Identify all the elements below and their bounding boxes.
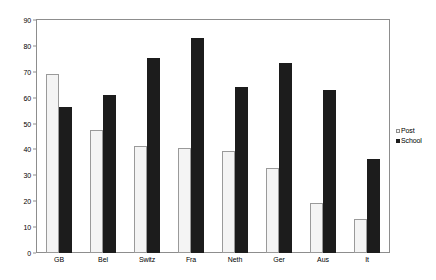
- y-tick-label: 70: [23, 68, 31, 75]
- y-tick-mark: [33, 175, 36, 176]
- bar-ger-school: [279, 63, 292, 253]
- legend-item-post: Post: [396, 126, 436, 135]
- square-light-swatch-icon: [396, 129, 400, 133]
- bar-neth-post: [222, 151, 235, 253]
- bar-bel-school: [103, 95, 116, 253]
- legend-item-school: School: [396, 136, 436, 145]
- x-tick-label: It: [365, 256, 369, 264]
- bar-ger-post: [266, 168, 279, 253]
- y-tick-label: 50: [23, 120, 31, 127]
- bars-layer: [37, 20, 389, 253]
- bar-it-post: [354, 219, 367, 253]
- legend: PostSchool: [396, 126, 436, 146]
- y-tick-mark: [33, 71, 36, 72]
- x-tick-label: GB: [54, 256, 64, 264]
- x-tick-label: Ger: [273, 256, 284, 264]
- legend-label: School: [401, 137, 422, 145]
- x-tick-label: Switz: [139, 256, 155, 264]
- bar-aus-post: [310, 203, 323, 253]
- bar-aus-school: [323, 90, 336, 253]
- bar-neth-school: [235, 87, 248, 253]
- bar-group: [301, 20, 345, 253]
- bar-gb-post: [46, 74, 59, 253]
- y-tick-mark: [33, 201, 36, 202]
- bar-group: [345, 20, 389, 253]
- bar-fra-school: [191, 38, 204, 253]
- bar-it-school: [367, 159, 380, 253]
- bar-group: [169, 20, 213, 253]
- y-tick-mark: [33, 149, 36, 150]
- y-tick-mark: [33, 45, 36, 46]
- y-tick-mark: [33, 123, 36, 124]
- legend-label: Post: [401, 127, 415, 135]
- x-tick-label: Fra: [186, 256, 196, 264]
- y-axis: 0102030405060708090: [0, 0, 36, 280]
- y-tick-label: 80: [23, 42, 31, 49]
- x-tick-label: Bel: [98, 256, 108, 264]
- bar-group: [257, 20, 301, 253]
- bar-group: [81, 20, 125, 253]
- bar-gb-school: [59, 107, 72, 253]
- bar-group: [213, 20, 257, 253]
- y-tick-label: 10: [23, 224, 31, 231]
- y-tick-mark: [33, 20, 36, 21]
- y-tick-label: 20: [23, 198, 31, 205]
- y-tick-mark: [33, 253, 36, 254]
- bar-chart: 0102030405060708090 GBBelSwitzFraNethGer…: [0, 0, 436, 280]
- y-tick-label: 90: [23, 17, 31, 24]
- x-tick-label: Neth: [228, 256, 242, 264]
- x-axis: GBBelSwitzFraNethGerAusIt: [37, 256, 389, 272]
- bar-bel-post: [90, 130, 103, 253]
- x-tick-label: Aus: [317, 256, 329, 264]
- y-tick-label: 40: [23, 146, 31, 153]
- y-tick-label: 60: [23, 94, 31, 101]
- y-tick-label: 0: [27, 250, 31, 257]
- bar-group: [37, 20, 81, 253]
- y-tick-mark: [33, 97, 36, 98]
- bar-switz-post: [134, 146, 147, 253]
- square-dark-swatch-icon: [396, 139, 400, 143]
- y-tick-mark: [33, 227, 36, 228]
- bar-fra-post: [178, 148, 191, 253]
- bar-group: [125, 20, 169, 253]
- bar-switz-school: [147, 58, 160, 253]
- y-tick-label: 30: [23, 172, 31, 179]
